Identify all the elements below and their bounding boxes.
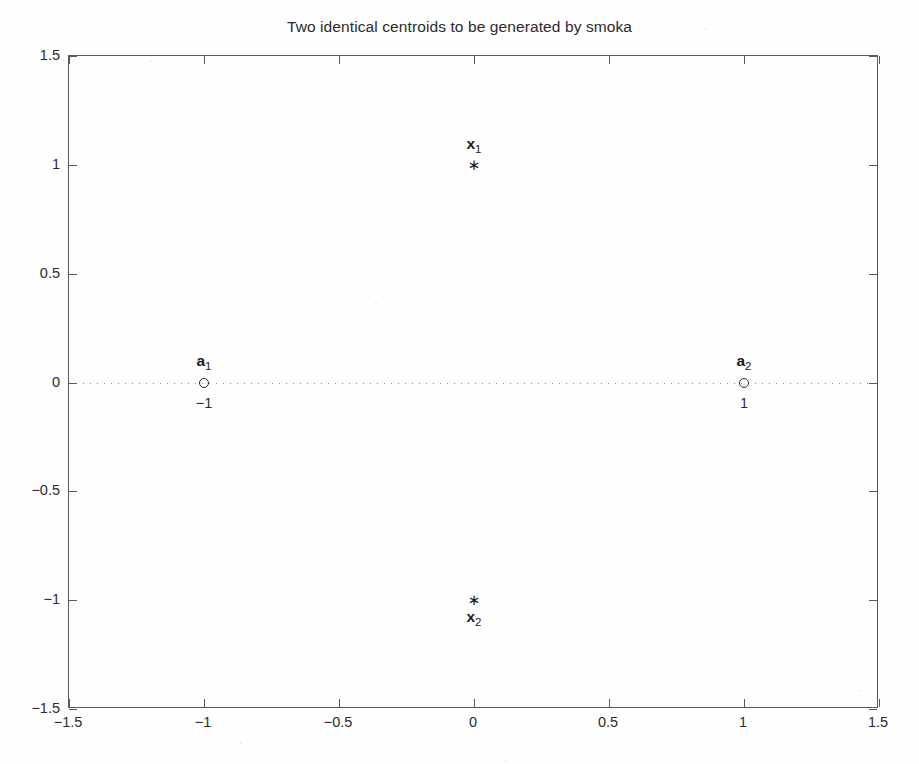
y-tick-4 [69,274,77,275]
annotation-label-x2: x2 [466,608,481,627]
y-tick-right-3 [869,383,877,384]
y-tick-label-4: 0.5 [40,265,60,281]
y-tick-right-1 [869,600,877,601]
y-tick-label-5: 1 [52,156,60,172]
annotation-symbol: a [736,352,745,369]
figure-canvas: Two identical centroids to be generated … [0,0,919,764]
annotation-label-x1: x1 [466,136,481,155]
x-tick-label-4: 0.5 [598,714,618,730]
x-tick-top-5 [744,56,745,64]
scan-artifact-3 [240,742,242,744]
data-point-x1: ∗ [468,157,481,172]
x-tick-top-6 [879,56,880,64]
x-tick-label-0: −1.5 [54,714,83,730]
plot-area: ∗∗ x1x2a1a2−11 [68,55,878,708]
x-tick-0 [69,699,70,707]
x-tick-2 [339,699,340,707]
y-tick-right-0 [869,709,877,710]
y-tick-label-0: −1.5 [31,700,60,716]
scan-artifact-0 [375,302,377,304]
annotation-subscript: 2 [745,359,751,371]
x-tick-top-0 [69,56,70,64]
x-tick-label-6: 1.5 [868,714,888,730]
y-tick-label-3: 0 [52,374,60,390]
y-tick-label-2: −0.5 [31,482,60,498]
x-tick-top-4 [609,56,610,64]
y-tick-right-6 [869,56,877,57]
scan-artifact-2 [860,690,862,692]
x-tick-top-2 [339,56,340,64]
annotation-subscript: 1 [205,359,211,371]
y-tick-0 [69,709,77,710]
annotation-subscript: 2 [475,615,481,627]
zero-reference-line [69,383,877,384]
data-point-x2: ∗ [468,593,481,608]
x-tick-label-1: −1 [195,714,212,730]
annotation-label-a1: a1 [196,352,211,371]
x-tick-1 [204,699,205,707]
annotation-value-a2: 1 [740,395,748,411]
scan-artifact-1 [705,28,707,30]
annotation-value-a1: −1 [196,395,213,411]
y-tick-6 [69,56,77,57]
x-tick-top-3 [474,56,475,64]
annotation-label-a2: a2 [736,352,751,371]
annotation-symbol: x [466,136,475,153]
scan-artifact-4 [505,760,507,762]
x-tick-label-3: 0 [469,714,477,730]
annotation-symbol: x [466,608,475,625]
y-tick-label-1: −1 [43,591,60,607]
x-tick-label-5: 1 [739,714,747,730]
y-tick-3 [69,383,77,384]
y-tick-label-6: 1.5 [40,47,60,63]
y-tick-1 [69,600,77,601]
y-tick-right-5 [869,165,877,166]
y-tick-2 [69,491,77,492]
annotation-subscript: 1 [475,143,481,155]
annotation-symbol: a [196,352,205,369]
x-tick-3 [474,699,475,707]
x-tick-label-2: −0.5 [324,714,353,730]
x-tick-top-1 [204,56,205,64]
scan-artifact-5 [150,60,152,62]
x-tick-5 [744,699,745,707]
x-tick-4 [609,699,610,707]
y-tick-right-4 [869,274,877,275]
page-title: Two identical centroids to be generated … [0,18,919,36]
x-tick-6 [879,699,880,707]
y-tick-right-2 [869,491,877,492]
y-tick-5 [69,165,77,166]
